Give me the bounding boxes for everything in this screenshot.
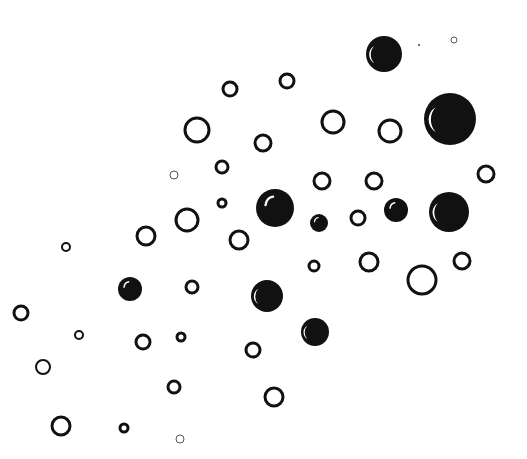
filled-bubble [424,93,476,145]
filled-bubble [301,318,329,346]
filled-bubble [384,198,408,222]
filled-bubble [251,280,283,312]
filled-bubble [429,192,469,232]
ink-dot [418,44,420,46]
filled-bubble [366,36,402,72]
filled-bubble [118,277,142,301]
filled-bubble [256,189,294,227]
filled-bubble [310,214,328,232]
bubbles-illustration [0,0,527,459]
